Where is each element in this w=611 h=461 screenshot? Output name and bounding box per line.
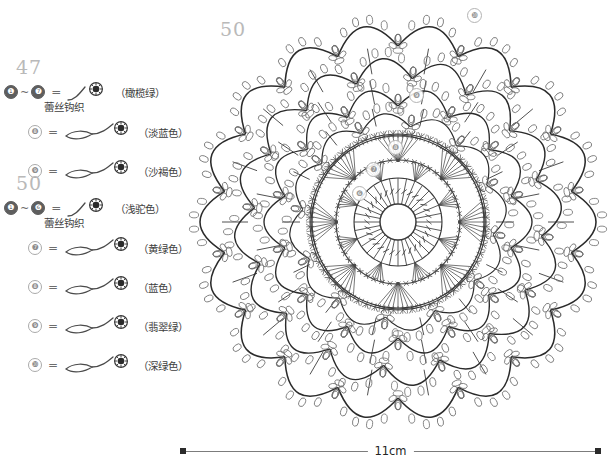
leaf-curve-picot-icon [63, 314, 135, 338]
legend-row: ❿ = （深绿色） [0, 351, 190, 379]
doily-chart-svg [180, 0, 611, 440]
equals-sign: = [51, 85, 61, 99]
legend-group-heading: 47 [0, 56, 190, 78]
equals-sign: = [51, 201, 61, 215]
leaf-curve-picot-icon [63, 236, 135, 260]
round-number-badge: ❶ [4, 201, 18, 215]
legend-group-50: 50 ❶ ~ ❻ = （浅驼色） [0, 172, 190, 379]
round-number-badge: ❾ [28, 319, 42, 333]
round-number-badge: ❽ [28, 125, 42, 139]
round-number-badge: ❽ [28, 280, 42, 294]
leaf-curve-picot-icon [63, 120, 135, 144]
range-tilde: ~ [20, 202, 29, 215]
leaf-curve-picot-icon [63, 353, 135, 377]
yarn-color-label: （浅驼色） [115, 201, 165, 216]
scale-end-left [180, 448, 186, 454]
equals-sign: = [48, 319, 58, 333]
legend-group-47: 47 ❶ ~ ❼ = （橄榄绿） [0, 56, 190, 185]
round-number-badge: ❻ [31, 201, 45, 215]
legend-row: ❽ = （蓝色） [0, 273, 190, 301]
round-marker-8: ❽ [388, 140, 403, 155]
leaf-curve-picot-icon [63, 275, 135, 299]
legend-row: ❽ = （淡蓝色） [0, 118, 190, 146]
legend-row: ❾ = （翡翠绿） [0, 312, 190, 340]
yarn-color-label: （橄榄绿） [115, 85, 165, 100]
diagram-title: 50 [220, 18, 246, 40]
round-number-badge: ❶ [4, 85, 18, 99]
equals-sign: = [48, 358, 58, 372]
round-marker-6: ❻ [352, 186, 367, 201]
round-marker-9: ❾ [409, 88, 424, 103]
equals-sign: = [48, 241, 58, 255]
round-number-badge: ❿ [28, 358, 42, 372]
scale-bar: 11cm [180, 443, 601, 461]
round-marker-7: ❼ [366, 162, 381, 177]
crochet-doily-diagram: 50 [180, 0, 611, 440]
equals-sign: = [48, 125, 58, 139]
legend-panel: 47 ❶ ~ ❼ = （橄榄绿） [0, 0, 190, 461]
legend-group-heading: 50 [0, 172, 190, 194]
legend-row: ❼ = （黄绿色） [0, 234, 190, 262]
round-number-badge: ❼ [31, 85, 45, 99]
range-tilde: ~ [20, 86, 29, 99]
round-marker-10: ❿ [467, 8, 482, 23]
round-number-badge: ❼ [28, 241, 42, 255]
scale-label: 11cm [367, 443, 413, 460]
equals-sign: = [48, 280, 58, 294]
scale-end-right [595, 448, 601, 454]
yarn-color-label: （蓝色） [138, 280, 178, 295]
